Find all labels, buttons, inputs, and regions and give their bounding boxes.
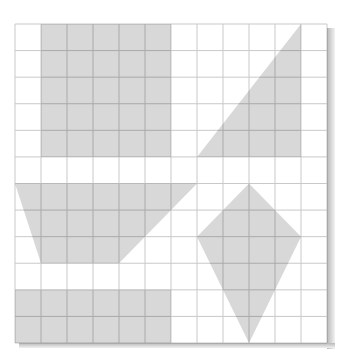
rectangle-top-left: [41, 24, 171, 157]
grid-diagram: [0, 0, 346, 350]
